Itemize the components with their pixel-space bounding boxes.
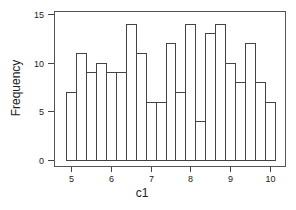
histogram-bar — [97, 64, 107, 161]
histogram-bar — [157, 103, 167, 161]
x-tick-label: 5 — [69, 174, 74, 184]
x-tick-label: 9 — [228, 174, 233, 184]
x-tick-label: 7 — [149, 174, 154, 184]
histogram-bar — [147, 103, 157, 161]
histogram-bar — [186, 25, 196, 161]
histogram-bar — [246, 44, 256, 161]
histogram-chart: 051015 5678910 c1 Frequency — [0, 0, 296, 210]
histogram-bar — [266, 103, 276, 161]
histogram-bar — [67, 93, 77, 161]
y-axis-label: Frequency — [9, 60, 23, 117]
histogram-bar — [256, 83, 266, 161]
histogram-bar — [117, 73, 127, 161]
histogram-bar — [196, 122, 206, 161]
histogram-bars — [67, 25, 276, 161]
x-tick-label: 6 — [109, 174, 114, 184]
y-tick-label: 15 — [34, 10, 44, 20]
histogram-bar — [127, 25, 137, 161]
histogram-bar — [226, 64, 236, 161]
y-tick-label: 5 — [39, 107, 44, 117]
histogram-bar — [176, 93, 186, 161]
histogram-bar — [137, 54, 147, 161]
histogram-bar — [87, 73, 97, 161]
x-axis: 5678910 — [69, 167, 276, 184]
histogram-bar — [236, 83, 246, 161]
x-tick-label: 8 — [188, 174, 193, 184]
x-tick-label: 10 — [265, 174, 275, 184]
histogram-bar — [77, 54, 87, 161]
histogram-bar — [167, 44, 176, 161]
histogram-bar — [107, 73, 117, 161]
histogram-bar — [216, 25, 226, 161]
y-axis: 051015 — [34, 10, 54, 166]
y-tick-label: 10 — [34, 59, 44, 69]
y-tick-label: 0 — [39, 156, 44, 166]
x-axis-label: c1 — [136, 186, 149, 200]
histogram-bar — [206, 34, 216, 161]
